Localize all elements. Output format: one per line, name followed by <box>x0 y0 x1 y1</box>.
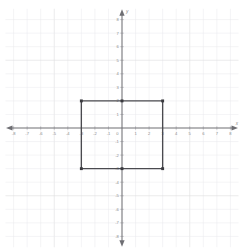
y-axis-arrow-up <box>119 9 124 16</box>
vertex-point <box>80 99 83 102</box>
plot-area: -8-7-6-5-4-3-2-1012345678 -8-7-6-5-4-3-2… <box>0 0 243 251</box>
x-tick-label: 1 <box>134 131 137 136</box>
y-axis-arrow-down <box>119 240 124 247</box>
x-tick-label: -4 <box>66 131 70 136</box>
vertex-point <box>161 99 164 102</box>
x-tick-label: 4 <box>175 131 178 136</box>
x-tick-label: 0 <box>116 131 119 136</box>
axis-name-labels: xy <box>125 9 239 125</box>
x-tick-label: -2 <box>93 131 97 136</box>
vertex-point <box>80 167 83 170</box>
x-axis-name-label: x <box>235 121 239 126</box>
x-tick-label: 2 <box>148 131 151 136</box>
x-tick-label: -6 <box>39 131 43 136</box>
vertex-point <box>121 99 124 102</box>
vertex-point <box>121 167 124 170</box>
x-tick-label: -7 <box>25 131 29 136</box>
x-tick-label: -8 <box>12 131 16 136</box>
x-tick-label: -5 <box>52 131 56 136</box>
coordinate-plane-graph: -8-7-6-5-4-3-2-1012345678 -8-7-6-5-4-3-2… <box>0 0 243 251</box>
x-axis-arrow-right <box>232 125 239 130</box>
x-tick-label: 7 <box>216 131 219 136</box>
x-tick-label: 5 <box>189 131 192 136</box>
x-tick-label: 6 <box>202 131 205 136</box>
x-tick-label: -1 <box>107 131 111 136</box>
y-axis-name-label: y <box>125 9 129 14</box>
x-tick-label: 8 <box>229 131 232 136</box>
vertex-point <box>161 167 164 170</box>
